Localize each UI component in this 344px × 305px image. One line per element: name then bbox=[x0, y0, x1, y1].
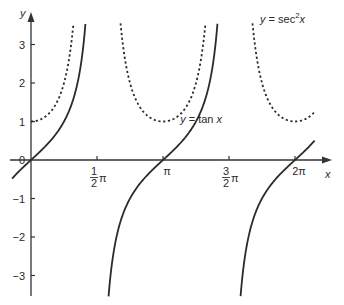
x-axis-label: x bbox=[324, 168, 331, 180]
y-tick-label: 3 bbox=[19, 39, 25, 51]
x-tick-label-denominator: 2 bbox=[223, 177, 229, 189]
x-tick-label: 2π bbox=[292, 165, 306, 177]
x-tick-label-pi: π bbox=[231, 172, 239, 184]
y-tick-label: −1 bbox=[12, 193, 25, 205]
x-tick-label-numerator: 3 bbox=[223, 165, 229, 177]
x-ticks: 12ππ32π2π bbox=[90, 156, 306, 189]
y-tick-label: −3 bbox=[12, 270, 25, 282]
sec-squared-curve bbox=[121, 23, 206, 121]
y-tick-label: −2 bbox=[12, 231, 25, 243]
x-tick-label-pi: π bbox=[99, 172, 107, 184]
tan-annotation-text: = tan bbox=[186, 113, 217, 125]
sec2-annotation: y = sec2x bbox=[259, 11, 306, 25]
x-axis-arrow-icon bbox=[322, 157, 332, 164]
y-tick-label: 2 bbox=[19, 77, 25, 89]
sec-squared-curve bbox=[252, 23, 314, 121]
tan-curve bbox=[241, 141, 315, 297]
y-tick-label: 0 bbox=[19, 154, 25, 166]
x-tick-label-numerator: 1 bbox=[91, 165, 97, 177]
x-tick-label-denominator: 2 bbox=[91, 177, 97, 189]
y-axis-label: y bbox=[19, 7, 27, 19]
tan-annotation: y = tan x bbox=[179, 113, 222, 125]
tan-sec-squared-chart: x y 3210−1−2−3 12ππ32π2π y = tan x y = s… bbox=[0, 0, 344, 305]
y-axis-arrow-icon bbox=[28, 12, 35, 22]
x-tick-label: π bbox=[163, 165, 171, 177]
sec-squared-curve bbox=[31, 24, 73, 122]
y-tick-label: 1 bbox=[19, 116, 25, 128]
